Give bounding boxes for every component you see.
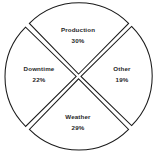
pie-slice-value-downtime: 22% [8,77,70,84]
pie-slice-value-production: 30% [0,38,156,45]
pie-slice-name-downtime: Downtime [8,66,70,73]
pie-slice-value-weather: 29% [0,125,156,132]
pie-slice-label-other: Other 19% [94,66,150,84]
pie-slice-label-downtime: Downtime 22% [8,66,70,84]
pie-slice-name-production: Production [0,27,156,34]
pie-slice-value-other: 19% [94,77,150,84]
pie-chart: Production 30% Other 19% Weather 29% Dow… [0,0,156,154]
pie-slice-name-weather: Weather [0,114,156,121]
pie-slice-label-production: Production 30% [0,27,156,45]
pie-slice-label-weather: Weather 29% [0,114,156,132]
pie-slice-name-other: Other [94,66,150,73]
